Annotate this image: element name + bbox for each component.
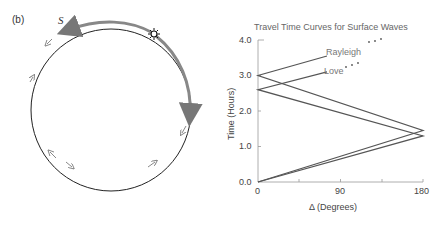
arrow-icon <box>182 126 186 133</box>
y-tick: 3.0 <box>239 70 252 80</box>
source-label: S <box>58 14 64 26</box>
love-label: Love <box>324 66 344 76</box>
x-tick: 180 <box>414 186 429 196</box>
great-circle-panel: (b) S <box>0 0 224 225</box>
arrow-icon <box>30 77 33 82</box>
y-tick: 2.0 <box>239 106 252 116</box>
y-tick: 4.0 <box>239 35 252 45</box>
major-arc-path <box>156 36 190 115</box>
y-tick: 0.0 <box>239 177 252 187</box>
earth-circle <box>31 29 191 191</box>
minor-arc-path <box>68 22 153 33</box>
arrow-icon <box>148 162 155 167</box>
chart-title: Travel Time Curves for Surface Waves <box>254 22 408 32</box>
great-circle-diagram <box>0 0 224 225</box>
arrow-icon <box>50 152 56 158</box>
x-tick: 90 <box>335 186 345 196</box>
axes <box>258 40 423 182</box>
rayleigh-label: Rayleigh <box>326 47 361 57</box>
arrow-icon <box>66 162 72 167</box>
x-tick: 0 <box>255 186 260 196</box>
arrow-icon <box>47 39 52 44</box>
love-curve <box>258 72 423 182</box>
y-tick: 1.0 <box>239 141 252 151</box>
x-axis-label: Δ (Degrees) <box>309 202 357 212</box>
panel-label: (b) <box>12 14 24 25</box>
travel-time-chart: Travel Time Curves for Surface Waves 4.0… <box>224 0 448 225</box>
y-axis-label: Time (Hours) <box>226 88 236 140</box>
